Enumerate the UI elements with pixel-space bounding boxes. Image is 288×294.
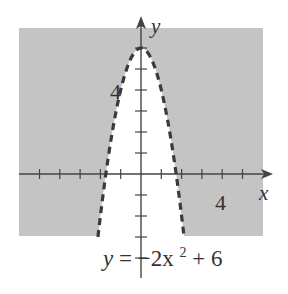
y-tick-label-4: 4 — [110, 79, 121, 104]
x-axis-label: x — [258, 181, 269, 205]
inequality-graph: y x 4 4 y = −2x 2 + 6 — [0, 0, 288, 294]
x-tick-label-4: 4 — [215, 190, 226, 215]
plot-area: y x 4 4 y = −2x 2 + 6 — [0, 0, 288, 294]
y-axis-label: y — [149, 14, 161, 38]
equation-label: y = −2x 2 + 6 — [101, 237, 222, 271]
